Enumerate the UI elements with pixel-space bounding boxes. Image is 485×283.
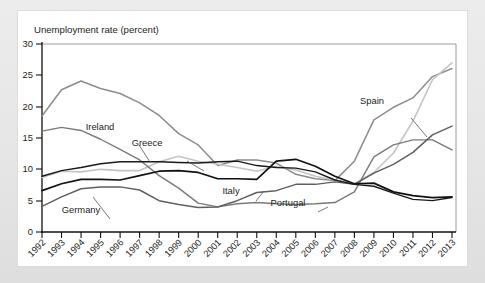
y-tick-label: 15 <box>23 132 33 143</box>
y-axis-ticks <box>36 44 42 232</box>
chart-card: Unemployment rate (percent) 30 <box>18 11 467 266</box>
x-tick-label: 2001 <box>202 237 224 259</box>
x-tick-label: 1998 <box>143 237 165 259</box>
plot-frame <box>42 44 456 232</box>
y-tick-label: 25 <box>23 69 33 80</box>
y-tick-label: 20 <box>23 101 33 112</box>
x-tick-label: 2005 <box>280 237 302 259</box>
x-tick-label: 2012 <box>416 237 438 259</box>
y-axis: 30 25 20 15 10 5 0 <box>23 38 42 237</box>
y-axis-tick-labels: 30 25 20 15 10 5 0 <box>23 38 33 237</box>
series-label-portugal: Portugal <box>271 197 306 208</box>
series-line-ireland <box>42 127 452 207</box>
y-tick-label: 0 <box>28 226 33 237</box>
x-axis-ticks <box>42 232 452 238</box>
x-tick-label: 2008 <box>338 237 360 259</box>
x-tick-label: 1995 <box>84 237 106 259</box>
x-tick-label: 1996 <box>104 237 126 259</box>
x-tick-label: 2013 <box>436 237 458 259</box>
x-tick-label: 1997 <box>123 237 145 259</box>
x-tick-label: 2006 <box>299 237 321 259</box>
data-series-group <box>42 63 452 208</box>
x-tick-label: 1999 <box>163 237 185 259</box>
series-label-ireland: Ireland <box>86 121 115 132</box>
x-tick-label: 1994 <box>65 237 87 259</box>
x-tick-label: 2007 <box>319 237 341 259</box>
x-tick-label: 2010 <box>377 237 399 259</box>
series-inline-labels: SpainIrelandGreeceItalyPortugalGermany <box>62 95 384 215</box>
unemployment-rate-line-chart: Unemployment rate (percent) 30 <box>18 11 467 266</box>
y-tick-label: 10 <box>23 163 33 174</box>
x-tick-label: 2000 <box>182 237 204 259</box>
x-axis-tick-labels: 1992199319941995199619971998199920002001… <box>26 237 458 259</box>
x-tick-label: 1992 <box>26 237 48 259</box>
x-axis: 1992199319941995199619971998199920002001… <box>26 232 458 259</box>
y-tick-label: 30 <box>23 38 33 49</box>
series-label-italy: Italy <box>222 185 240 196</box>
series-line-germany <box>42 161 452 200</box>
chart-axis-title: Unemployment rate (percent) <box>34 24 159 35</box>
x-tick-label: 2011 <box>397 237 418 258</box>
figure-page: Unemployment rate (percent) 30 <box>0 0 485 283</box>
y-tick-label: 5 <box>28 195 33 206</box>
x-tick-label: 2009 <box>358 237 380 259</box>
series-label-greece: Greece <box>132 137 163 148</box>
x-tick-label: 2002 <box>221 237 243 259</box>
x-tick-label: 2004 <box>260 237 282 259</box>
series-label-germany: Germany <box>62 204 101 215</box>
x-tick-label: 2003 <box>241 237 263 259</box>
x-tick-label: 1993 <box>45 237 67 259</box>
series-label-spain: Spain <box>360 95 384 106</box>
series-line-portugal <box>42 126 452 207</box>
